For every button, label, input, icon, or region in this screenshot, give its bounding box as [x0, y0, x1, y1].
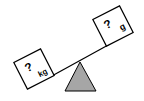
left-weight-box: ? kg: [14, 49, 54, 89]
right-weight-box: ? g: [93, 6, 133, 46]
balance-diagram: ? kg ? g: [0, 0, 144, 101]
